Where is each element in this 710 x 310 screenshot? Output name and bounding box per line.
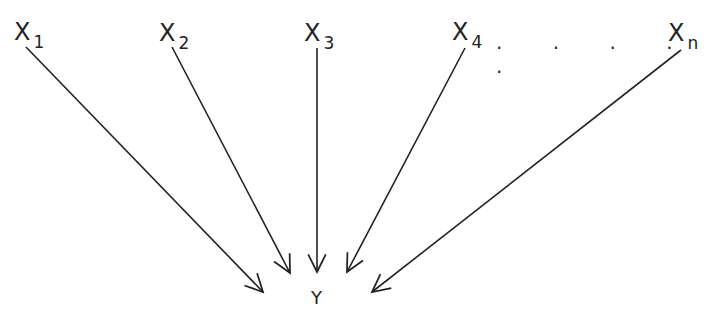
subscript: 1 xyxy=(33,32,44,52)
input-label-x1: X1 xyxy=(14,20,44,44)
var-x: X xyxy=(304,19,320,47)
input-label-x2: X2 xyxy=(159,21,189,45)
subscript: n xyxy=(687,33,698,53)
output-label-y: Y xyxy=(311,287,322,308)
arrow-x4-to-y xyxy=(347,48,465,272)
subscript: 4 xyxy=(471,32,482,52)
arrow-x2-to-y xyxy=(172,47,290,273)
var-x: X xyxy=(668,19,684,47)
arrow-x1-to-y xyxy=(26,47,263,292)
input-label-xn: Xn xyxy=(668,21,698,45)
arrow-xn-to-y xyxy=(372,50,681,292)
var-x: X xyxy=(452,18,468,46)
subscript: 2 xyxy=(178,33,189,53)
input-label-x3: X3 xyxy=(304,21,334,45)
var-x: X xyxy=(14,18,30,46)
subscript: 3 xyxy=(323,33,334,53)
input-label-x4: X4 xyxy=(452,20,482,44)
var-x: X xyxy=(159,19,175,47)
